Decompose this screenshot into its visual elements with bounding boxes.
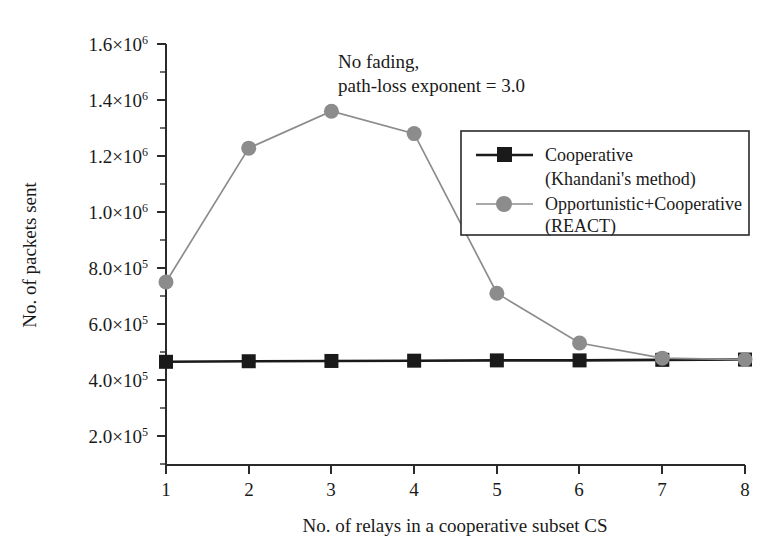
packets-sent-line-chart: 2.0×105 4.0×105 6.0×105 8.0×105 1.0×106 …: [0, 0, 773, 556]
y-tick-label-1p2e6: 1.2×106: [89, 145, 148, 167]
x-tick-label-5: 5: [492, 479, 502, 500]
chart-axes: [166, 44, 745, 465]
legend-marker-circle-icon: [496, 196, 512, 212]
x-tick-label-7: 7: [657, 479, 667, 500]
x-tick-label-1: 1: [161, 479, 171, 500]
data-point-circle-marker: [241, 141, 256, 156]
legend-label-react-line1: Opportunistic+Cooperative: [545, 194, 742, 214]
data-point-circle-marker: [572, 336, 587, 351]
x-tick-label-3: 3: [326, 479, 336, 500]
y-axis-title: No. of packets sent: [19, 181, 40, 327]
x-axis-ticks: [166, 465, 745, 474]
y-axis-ticks: [157, 44, 166, 464]
annotation-line-1: No fading,: [338, 51, 419, 72]
y-tick-label-1e6: 1.0×106: [89, 201, 148, 223]
x-axis-title: No. of relays in a cooperative subset CS: [303, 515, 608, 536]
annotation-line-2: path-loss exponent = 3.0: [338, 75, 525, 96]
data-point-circle-marker: [655, 351, 670, 366]
legend-marker-square-icon: [497, 147, 512, 162]
data-point-square-marker: [490, 353, 504, 367]
y-tick-label-2e5: 2.0×105: [89, 425, 148, 447]
y-tick-label-1p4e6: 1.4×106: [89, 89, 148, 111]
data-point-circle-marker: [489, 286, 504, 301]
y-tick-label-4e5: 4.0×105: [89, 369, 148, 391]
legend-label-react-line2: (REACT): [545, 216, 616, 237]
legend-label-cooperative-line2: (Khandani's method): [545, 169, 696, 190]
y-tick-label-1p6e6: 1.6×106: [89, 33, 148, 55]
x-tick-label-4: 4: [409, 479, 419, 500]
data-point-square-marker: [407, 354, 421, 368]
y-tick-label-8e5: 8.0×105: [89, 257, 148, 279]
data-point-square-marker: [159, 355, 173, 369]
x-tick-label-8: 8: [740, 479, 750, 500]
data-point-square-marker: [242, 354, 256, 368]
data-point-circle-marker: [407, 126, 422, 141]
y-tick-label-6e5: 6.0×105: [89, 313, 148, 335]
chart-legend[interactable]: Cooperative (Khandani's method) Opportun…: [461, 131, 749, 237]
data-point-circle-marker: [738, 352, 753, 367]
plot-annotation: No fading, path-loss exponent = 3.0: [338, 51, 525, 96]
legend-label-cooperative-line1: Cooperative: [545, 145, 633, 165]
x-tick-labels: 1 2 3 4 5 6 7 8: [161, 479, 750, 500]
x-tick-label-2: 2: [244, 479, 254, 500]
data-point-square-marker: [324, 354, 338, 368]
y-tick-labels: 2.0×105 4.0×105 6.0×105 8.0×105 1.0×106 …: [89, 33, 148, 447]
data-point-circle-marker: [159, 275, 174, 290]
data-point-circle-marker: [324, 104, 339, 119]
data-point-square-marker: [573, 353, 587, 367]
x-tick-label-6: 6: [574, 479, 584, 500]
chart-figure: 2.0×105 4.0×105 6.0×105 8.0×105 1.0×106 …: [0, 0, 773, 556]
